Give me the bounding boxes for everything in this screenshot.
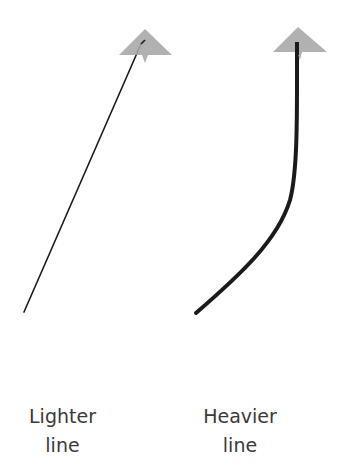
lighter-label-line2: line — [0, 431, 125, 460]
lighter-line-arrow — [24, 29, 172, 312]
heavier-label-line1: Heavier — [180, 402, 300, 431]
lighter-line-label: Lighter line — [0, 402, 125, 460]
line-weight-diagram — [0, 0, 340, 470]
heavier-line — [196, 44, 297, 313]
heavier-line-arrow — [196, 27, 327, 313]
heavier-line-label: Heavier line — [180, 402, 300, 460]
heavier-label-line2: line — [180, 431, 300, 460]
arrowhead-icon — [273, 27, 327, 60]
lighter-line — [24, 44, 141, 312]
arrowhead-icon — [119, 29, 172, 63]
lighter-label-line1: Lighter — [0, 402, 125, 431]
